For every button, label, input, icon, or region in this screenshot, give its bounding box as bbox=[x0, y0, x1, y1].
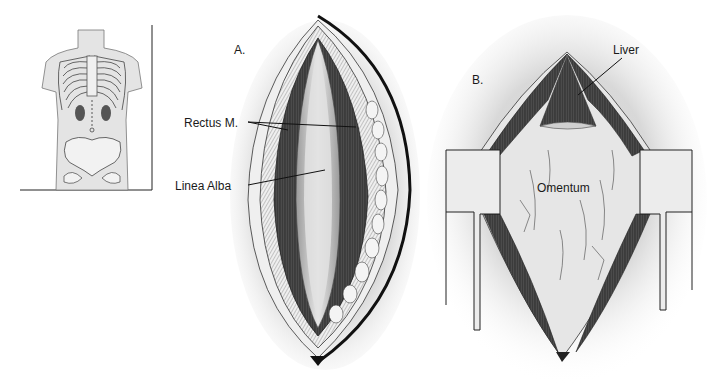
callout-linea-alba: Linea Alba bbox=[175, 180, 231, 192]
callout-liver: Liver bbox=[613, 44, 639, 56]
panel-b-exposure bbox=[427, 15, 707, 385]
panel-label-b: B. bbox=[472, 74, 483, 86]
callout-rectus-muscle: Rectus M. bbox=[184, 117, 238, 129]
panel-label-a: A. bbox=[234, 44, 245, 56]
panel-a-incision bbox=[230, 16, 420, 370]
illustration-canvas bbox=[0, 0, 707, 385]
torso-inset bbox=[20, 25, 152, 190]
callout-omentum: Omentum bbox=[537, 182, 590, 194]
surgical-illustration: A. Rectus M. Linea Alba B. Liver Omentum bbox=[0, 0, 707, 385]
